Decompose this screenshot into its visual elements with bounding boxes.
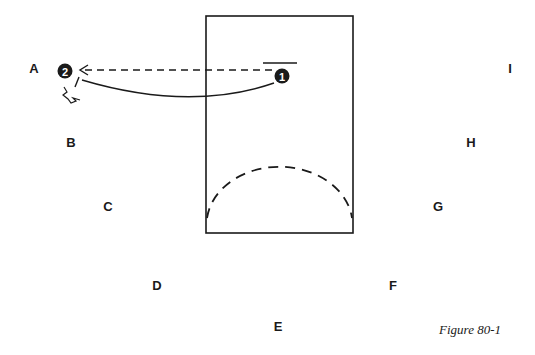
position-label-i: I [508, 61, 512, 76]
position-label-g: G [433, 199, 443, 214]
svg-text:2: 2 [62, 66, 68, 78]
cut-stop-bar [75, 77, 79, 87]
position-label-d: D [152, 278, 161, 293]
player-2-marker: 2 [58, 64, 73, 79]
dashed-arc [207, 167, 352, 218]
position-label-c: C [103, 199, 112, 214]
cut-path [82, 80, 274, 97]
court-boundary [206, 16, 353, 233]
figure-caption: Figure 80-1 [439, 322, 501, 338]
position-label-b: B [66, 135, 75, 150]
position-label-h: H [466, 135, 475, 150]
position-label-a: A [29, 61, 38, 76]
dribble-squiggle-icon [63, 87, 80, 103]
svg-text:1: 1 [279, 71, 285, 83]
position-label-e: E [274, 319, 283, 334]
position-label-f: F [389, 278, 397, 293]
court-diagram: 1 2 [0, 0, 535, 355]
player-1-marker: 1 [275, 69, 290, 84]
